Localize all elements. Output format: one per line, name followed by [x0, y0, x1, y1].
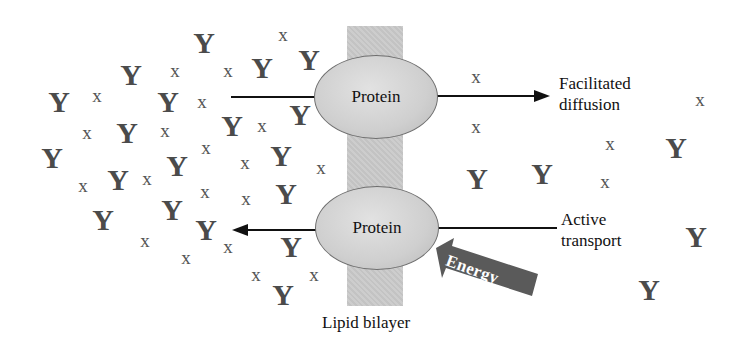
molecule-y-right: Y	[466, 164, 488, 194]
molecule-x-left: x	[251, 265, 261, 284]
molecule-y-left: Y	[195, 215, 217, 245]
molecule-y-left: Y	[92, 205, 114, 235]
molecule-x-left: x	[200, 182, 210, 201]
active-line-right	[437, 227, 557, 229]
molecule-y-left: Y	[41, 143, 63, 173]
transport-diagram: YxYxxYYYxYxxYxYxYYxxYxYxYxxxYYYYxxxYxxYx…	[0, 0, 742, 346]
molecule-x-left: x	[197, 92, 207, 111]
molecule-x-right: x	[695, 90, 705, 109]
molecule-y-left: Y	[272, 280, 294, 310]
facilitated-label-line2: diffusion	[559, 94, 631, 115]
protein-channel-top: Protein	[314, 55, 438, 139]
molecule-x-left: x	[240, 153, 250, 172]
molecule-x-left: x	[309, 265, 319, 284]
molecule-y-left: Y	[298, 45, 320, 75]
facilitated-line-left	[231, 96, 315, 98]
facilitated-arrowhead-icon	[534, 90, 550, 102]
molecule-y-right: Y	[665, 133, 687, 163]
protein-label: Protein	[352, 218, 401, 238]
active-line-left	[246, 229, 316, 231]
molecule-x-left: x	[278, 25, 288, 44]
lipid-bilayer-label: Lipid bilayer	[322, 313, 410, 333]
molecule-x-left: x	[92, 86, 102, 105]
facilitated-diffusion-label: Facilitated diffusion	[559, 73, 631, 115]
molecule-x-left: x	[142, 169, 152, 188]
molecule-x-left: x	[201, 138, 211, 157]
active-transport-label: Active transport	[561, 209, 621, 251]
molecule-y-left: Y	[120, 60, 142, 90]
molecule-x-left: x	[241, 189, 251, 208]
molecule-x-left: x	[223, 237, 233, 256]
molecule-x-left: x	[140, 231, 150, 250]
molecule-x-right: x	[471, 117, 481, 136]
molecule-x-left: x	[170, 61, 180, 80]
molecule-x-right: x	[600, 172, 610, 191]
active-label-line2: transport	[561, 230, 621, 251]
molecule-x-left: x	[316, 158, 326, 177]
molecule-y-left: Y	[116, 118, 138, 148]
energy-arrow: Energy	[432, 238, 540, 298]
molecule-y-left: Y	[193, 28, 215, 58]
molecule-x-left: x	[160, 121, 170, 140]
active-label-line1: Active	[561, 209, 621, 230]
protein-label: Protein	[351, 87, 400, 107]
molecule-y-left: Y	[280, 232, 302, 262]
protein-pump-bottom: Protein	[315, 186, 439, 270]
molecule-y-left: Y	[221, 111, 243, 141]
facilitated-line-right	[436, 95, 536, 97]
molecule-x-left: x	[257, 116, 267, 135]
molecule-x-left: x	[82, 123, 92, 142]
molecule-y-left: Y	[166, 151, 188, 181]
facilitated-label-line1: Facilitated	[559, 73, 631, 94]
molecule-x-right: x	[605, 134, 615, 153]
molecule-y-left: Y	[161, 195, 183, 225]
molecule-x-left: x	[78, 176, 88, 195]
molecule-y-left: Y	[251, 53, 273, 83]
molecule-y-right: Y	[638, 275, 660, 305]
molecule-x-left: x	[223, 61, 233, 80]
molecule-x-left: x	[181, 248, 191, 267]
molecule-y-left: Y	[107, 165, 129, 195]
molecule-y-left: Y	[275, 179, 297, 209]
molecule-y-left: Y	[270, 141, 292, 171]
molecule-x-right: x	[471, 67, 481, 86]
active-arrowhead-icon	[232, 224, 248, 236]
molecule-y-right: Y	[685, 222, 707, 252]
molecule-y-left: Y	[289, 100, 311, 130]
molecule-y-right: Y	[531, 159, 553, 189]
molecule-y-left: Y	[48, 87, 70, 117]
molecule-y-left: Y	[157, 87, 179, 117]
